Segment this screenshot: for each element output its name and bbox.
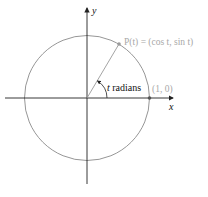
point-start [148,96,152,100]
y-axis-label: y [91,5,97,16]
angle-unit: radians [110,82,141,93]
point-p-label: P(t) = (cos t, sin t) [124,37,193,48]
angle-arc-icon [98,81,108,98]
x-axis-label: x [168,101,174,112]
point-start-label: (1, 0) [152,84,173,95]
unit-circle-diagram: y x P(t) = (cos t, sin t) t radians (1, … [0,0,208,197]
point-p [117,42,121,46]
angle-label: t radians [107,82,141,93]
